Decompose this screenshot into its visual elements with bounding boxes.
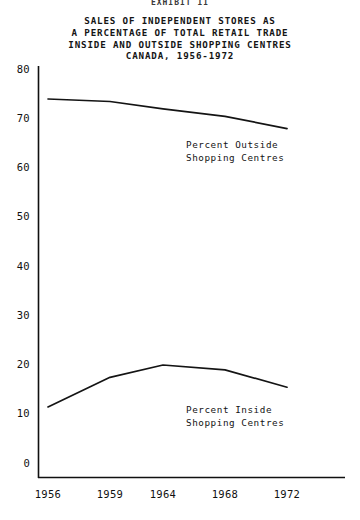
y-tick-label: 0 (2, 458, 30, 469)
x-tick-label: 1968 (202, 489, 248, 500)
x-tick-label: 1959 (87, 489, 133, 500)
y-tick-label: 20 (2, 359, 30, 370)
y-tick-label: 40 (2, 261, 30, 272)
y-tick-label: 70 (2, 113, 30, 124)
series-label-outside-line1: Percent Outside (186, 139, 284, 152)
series-line-outside (48, 99, 287, 129)
series-label-outside-line2: Shopping Centres (186, 152, 284, 165)
series-label-inside-line2: Shopping Centres (186, 417, 284, 430)
y-tick-label: 80 (2, 64, 30, 75)
x-tick-label: 1956 (25, 489, 71, 500)
y-tick-label: 60 (2, 162, 30, 173)
series-line-inside (48, 365, 287, 407)
x-tick-label: 1964 (140, 489, 186, 500)
y-tick-label: 30 (2, 310, 30, 321)
series-label-outside: Percent Outside Shopping Centres (186, 139, 284, 164)
y-tick-label: 50 (2, 211, 30, 222)
series-label-inside: Percent Inside Shopping Centres (186, 404, 284, 429)
x-tick-label: 1972 (264, 489, 310, 500)
line-chart-plot (0, 0, 360, 520)
series-label-inside-line1: Percent Inside (186, 404, 284, 417)
y-tick-label: 10 (2, 408, 30, 419)
